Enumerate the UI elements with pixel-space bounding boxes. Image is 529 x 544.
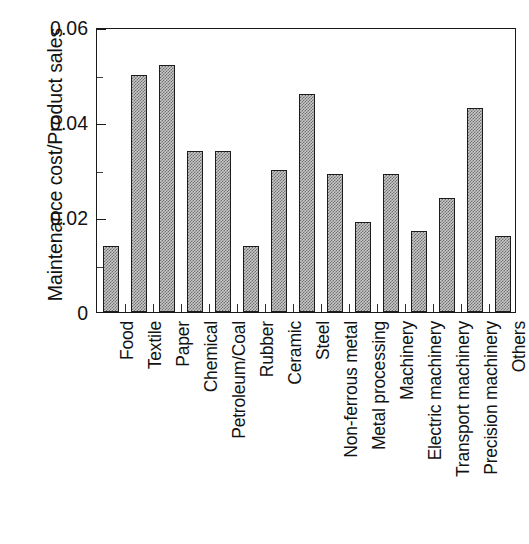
y-tick-label: 0.04 xyxy=(32,112,88,135)
x-tick xyxy=(153,304,154,312)
x-tick-label: Rubber xyxy=(257,321,278,377)
x-tick xyxy=(237,304,238,312)
y-tick-major xyxy=(97,124,106,125)
bar xyxy=(467,108,482,312)
plot-area xyxy=(96,28,516,313)
bar xyxy=(159,65,174,312)
x-tick-label: Food xyxy=(117,321,138,360)
x-tick-label: Textile xyxy=(145,321,166,369)
x-tick-label: Others xyxy=(509,321,529,372)
bar xyxy=(131,75,146,313)
y-tick-major xyxy=(97,219,106,220)
x-tick xyxy=(433,304,434,312)
x-tick xyxy=(461,304,462,312)
x-tick-label: Petroleum/Coal xyxy=(229,321,250,439)
y-tick-minor xyxy=(97,77,103,78)
x-tick xyxy=(377,304,378,312)
x-tick-label: Precision machinery xyxy=(481,321,502,475)
y-tick-minor xyxy=(97,267,103,268)
x-tick xyxy=(405,304,406,312)
bar xyxy=(215,151,230,313)
x-tick xyxy=(181,304,182,312)
bar xyxy=(299,94,314,313)
x-tick xyxy=(489,304,490,312)
x-tick-label: Non-ferrous metal xyxy=(341,321,362,458)
bar xyxy=(355,222,370,312)
x-tick-label: Machinery xyxy=(397,321,418,400)
x-tick-label: Ceramic xyxy=(285,321,306,385)
y-tick-label: 0 xyxy=(32,302,88,325)
x-tick-label: Metal processing xyxy=(369,321,390,450)
x-tick xyxy=(293,304,294,312)
x-tick-label: Paper xyxy=(173,321,194,367)
bar xyxy=(383,174,398,312)
y-tick-label: 0.06 xyxy=(32,17,88,40)
bar xyxy=(103,246,118,313)
y-tick-major xyxy=(97,29,106,30)
x-tick xyxy=(265,304,266,312)
bar xyxy=(271,170,286,313)
bar xyxy=(495,236,510,312)
x-tick-label: Transport machinery xyxy=(453,321,474,477)
x-tick xyxy=(321,304,322,312)
bar xyxy=(187,151,202,313)
y-tick-label: 0.02 xyxy=(32,207,88,230)
x-axis-tick-labels: FoodTextilePaperChemicalPetroleum/CoalRu… xyxy=(96,313,516,544)
x-tick xyxy=(349,304,350,312)
bar xyxy=(411,231,426,312)
bar xyxy=(243,246,258,313)
x-tick-label: Electric machinery xyxy=(425,321,446,460)
bar xyxy=(327,174,342,312)
y-tick-minor xyxy=(97,172,103,173)
x-tick-label: Chemical xyxy=(201,321,222,392)
x-tick-label: Steel xyxy=(313,321,334,360)
y-axis-tick-labels: 00.020.040.06 xyxy=(30,0,88,544)
bar-chart-figure: Maintenance cost/Product sales 00.020.04… xyxy=(0,0,529,544)
x-tick xyxy=(125,304,126,312)
bar xyxy=(439,198,454,312)
x-tick xyxy=(209,304,210,312)
